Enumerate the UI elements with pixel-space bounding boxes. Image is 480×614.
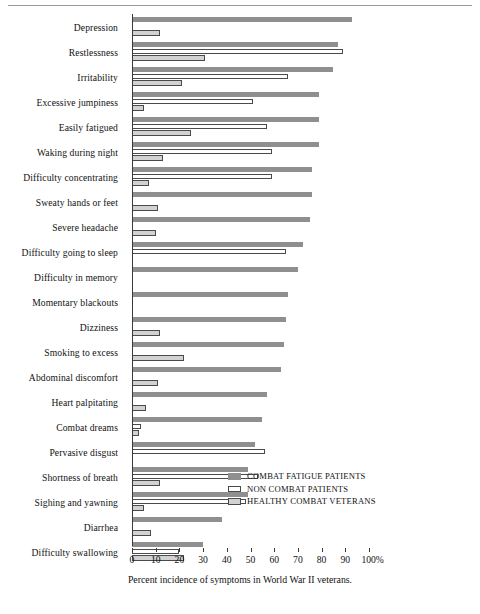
bar-group bbox=[132, 64, 480, 89]
axis-tick bbox=[322, 548, 323, 552]
bar-combat-fatigue-patients bbox=[132, 242, 303, 247]
bar-combat-fatigue-patients bbox=[132, 117, 319, 122]
bar-group bbox=[132, 239, 480, 264]
bar-combat-fatigue-patients bbox=[132, 192, 312, 197]
chart-legend: COMBAT FATIGUE PATIENTSNON COMBAT PATIEN… bbox=[228, 470, 376, 508]
category-label: Abdominal discomfort bbox=[29, 371, 118, 382]
category-label: Heart palpitating bbox=[52, 396, 118, 407]
bar-combat-fatigue-patients bbox=[132, 217, 310, 222]
bar-healthy-combat-veterans bbox=[132, 230, 156, 236]
category-label: Combat dreams bbox=[56, 421, 118, 432]
bar-group bbox=[132, 164, 480, 189]
bar-group bbox=[132, 264, 480, 289]
bar-row: Difficulty in memory bbox=[0, 264, 480, 289]
axis-tick bbox=[369, 548, 370, 552]
category-label: Difficulty concentrating bbox=[23, 171, 118, 182]
legend-label: HEALTHY COMBAT VETERANS bbox=[247, 496, 376, 506]
legend-item: HEALTHY COMBAT VETERANS bbox=[228, 495, 376, 508]
axis-tick bbox=[298, 548, 299, 552]
bar-healthy-combat-veterans bbox=[132, 405, 146, 411]
bar-healthy-combat-veterans bbox=[132, 430, 139, 436]
top-divider bbox=[8, 5, 472, 6]
legend-swatch-non_combat bbox=[228, 486, 241, 493]
axis-tick bbox=[203, 548, 204, 552]
legend-item: COMBAT FATIGUE PATIENTS bbox=[228, 470, 376, 483]
bar-non-combat-patients bbox=[132, 74, 288, 80]
category-label: Waking during night bbox=[37, 146, 118, 157]
axis-tick bbox=[179, 548, 180, 552]
legend-swatch-combat_fatigue bbox=[228, 473, 241, 480]
bar-row: Combat dreams bbox=[0, 414, 480, 439]
bar-healthy-combat-veterans bbox=[132, 205, 158, 211]
bar-row: Pervasive disgust bbox=[0, 439, 480, 464]
category-label: Restlessness bbox=[69, 46, 118, 57]
legend-label: NON COMBAT PATIENTS bbox=[247, 484, 348, 494]
bar-combat-fatigue-patients bbox=[132, 542, 203, 547]
bar-group bbox=[132, 14, 480, 39]
bar-row: Smoking to excess bbox=[0, 339, 480, 364]
bar-healthy-combat-veterans bbox=[132, 180, 149, 186]
bar-combat-fatigue-patients bbox=[132, 392, 267, 397]
bar-group bbox=[132, 339, 480, 364]
bar-combat-fatigue-patients bbox=[132, 142, 319, 147]
bar-row: Easily fatigued bbox=[0, 114, 480, 139]
bar-group bbox=[132, 139, 480, 164]
axis-tick bbox=[274, 548, 275, 552]
figure-caption: Percent incidence of symptoms in World W… bbox=[0, 574, 480, 585]
bar-combat-fatigue-patients bbox=[132, 417, 262, 422]
bar-combat-fatigue-patients bbox=[132, 317, 286, 322]
bar-group bbox=[132, 314, 480, 339]
axis-tick-label: 50 bbox=[246, 554, 256, 565]
axis-tick bbox=[227, 548, 228, 552]
bar-non-combat-patients bbox=[132, 124, 267, 130]
bar-row: Difficulty concentrating bbox=[0, 164, 480, 189]
bar-non-combat-patients bbox=[132, 424, 141, 430]
legend-label: COMBAT FATIGUE PATIENTS bbox=[247, 471, 366, 481]
bar-row: Diarrhea bbox=[0, 514, 480, 539]
bar-combat-fatigue-patients bbox=[132, 17, 352, 22]
bar-group bbox=[132, 289, 480, 314]
axis-tick-label: 70 bbox=[293, 554, 303, 565]
category-label: Dizziness bbox=[80, 321, 118, 332]
bar-non-combat-patients bbox=[132, 249, 286, 255]
bar-combat-fatigue-patients bbox=[132, 92, 319, 97]
axis-tick bbox=[156, 548, 157, 552]
bar-group bbox=[132, 214, 480, 239]
bar-group bbox=[132, 514, 480, 539]
bar-combat-fatigue-patients bbox=[132, 517, 222, 522]
bar-combat-fatigue-patients bbox=[132, 42, 338, 47]
legend-swatch-healthy_veterans bbox=[228, 498, 241, 505]
bar-row: Severe headache bbox=[0, 214, 480, 239]
category-label: Pervasive disgust bbox=[49, 446, 118, 457]
bar-group bbox=[132, 189, 480, 214]
bar-group bbox=[132, 364, 480, 389]
bar-non-combat-patients bbox=[132, 49, 343, 55]
plot-area: DepressionRestlessnessIrritabilityExcess… bbox=[0, 14, 480, 546]
axis-tick-label: 0 bbox=[130, 554, 135, 565]
bar-healthy-combat-veterans bbox=[132, 30, 160, 36]
bar-combat-fatigue-patients bbox=[132, 167, 312, 172]
axis-tick-label: 40 bbox=[222, 554, 232, 565]
category-label: Excessive jumpiness bbox=[36, 96, 118, 107]
bar-group bbox=[132, 114, 480, 139]
bar-row: Irritability bbox=[0, 64, 480, 89]
bar-combat-fatigue-patients bbox=[132, 342, 284, 347]
bar-group bbox=[132, 389, 480, 414]
bar-healthy-combat-veterans bbox=[132, 155, 163, 161]
bar-combat-fatigue-patients bbox=[132, 442, 255, 447]
bar-non-combat-patients bbox=[132, 149, 272, 155]
bar-group bbox=[132, 414, 480, 439]
bar-healthy-combat-veterans bbox=[132, 55, 205, 61]
bar-row: Restlessness bbox=[0, 39, 480, 64]
bar-non-combat-patients bbox=[132, 99, 253, 105]
bar-group bbox=[132, 439, 480, 464]
chart-figure: DepressionRestlessnessIrritabilityExcess… bbox=[0, 0, 480, 614]
category-label: Sighing and yawning bbox=[35, 496, 118, 507]
bar-row: Momentary blackouts bbox=[0, 289, 480, 314]
bar-healthy-combat-veterans bbox=[132, 380, 158, 386]
bar-non-combat-patients bbox=[132, 174, 272, 180]
category-label: Diarrhea bbox=[84, 521, 118, 532]
bar-row: Heart palpitating bbox=[0, 389, 480, 414]
bar-combat-fatigue-patients bbox=[132, 267, 298, 272]
bar-combat-fatigue-patients bbox=[132, 67, 333, 72]
